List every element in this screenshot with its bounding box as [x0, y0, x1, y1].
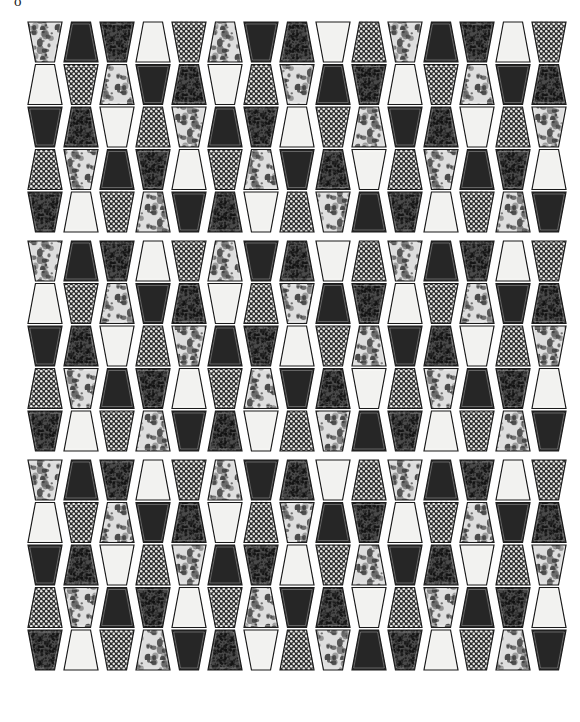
tessellation-row	[28, 284, 566, 324]
tessellation-row	[28, 588, 566, 628]
figure-root: o	[0, 0, 580, 722]
tessellation-row	[28, 545, 566, 585]
tessellation-row	[28, 65, 566, 105]
tessellation-row	[28, 411, 566, 451]
tessellation-band	[28, 241, 566, 451]
tessellation-row	[28, 192, 566, 232]
tessellation-row	[28, 326, 566, 366]
tessellation-band	[28, 22, 566, 232]
tessellation-row	[28, 107, 566, 147]
tessellation-row	[28, 369, 566, 409]
tessellation-row	[28, 150, 566, 190]
tessellation-row	[28, 22, 566, 62]
tessellation-band	[28, 460, 566, 670]
tessellation-row	[28, 630, 566, 670]
tessellation-row	[28, 241, 566, 281]
tessellation-row	[28, 503, 566, 543]
tessellation-row	[28, 460, 566, 500]
tessellation-canvas	[0, 0, 580, 722]
